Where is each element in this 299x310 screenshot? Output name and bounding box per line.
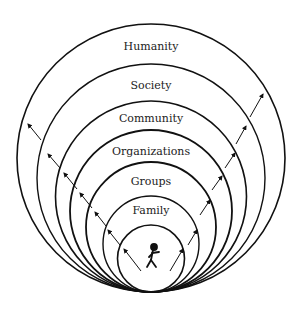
arrow-icon bbox=[225, 153, 235, 168]
ring-label-groups: Groups bbox=[131, 175, 172, 188]
rings-group bbox=[17, 24, 285, 292]
arrow-icon bbox=[236, 126, 246, 144]
arrow-icon bbox=[95, 212, 106, 226]
arrow-icon bbox=[28, 124, 41, 140]
arrow-icon bbox=[200, 200, 210, 215]
arrow-icon bbox=[212, 176, 222, 190]
stick-figure-icon bbox=[147, 244, 159, 267]
arrow-icon bbox=[170, 249, 183, 271]
arrow-icon bbox=[108, 230, 120, 245]
arrow-icon bbox=[188, 230, 197, 245]
arrow-icon bbox=[48, 154, 60, 168]
ring-label-humanity: Humanity bbox=[124, 40, 180, 53]
ring-label-community: Community bbox=[119, 112, 184, 125]
arrow-icon bbox=[124, 249, 141, 271]
labels-group: Humanity Society Community Organizations… bbox=[112, 40, 190, 217]
arrow-icon bbox=[80, 193, 92, 208]
ring-label-organizations: Organizations bbox=[112, 145, 190, 158]
ring-label-society: Society bbox=[131, 79, 173, 92]
arrow-icon bbox=[250, 94, 263, 117]
nested-circles-diagram: Humanity Society Community Organizations… bbox=[0, 0, 299, 310]
ring-label-family: Family bbox=[132, 204, 170, 217]
